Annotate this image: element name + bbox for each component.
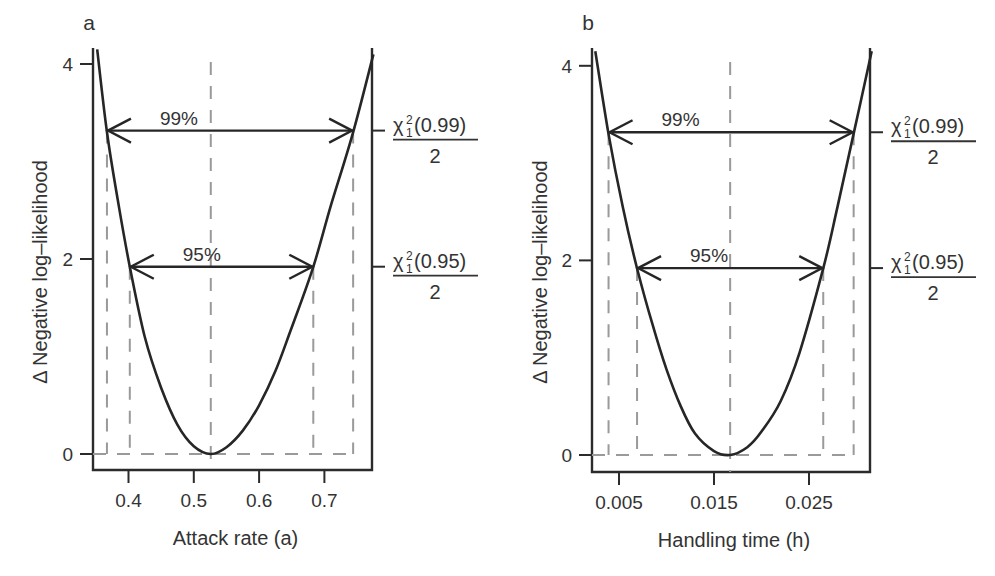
chi-superscript: 2 bbox=[904, 250, 911, 264]
x-tick-label: 0.7 bbox=[311, 490, 337, 511]
y-tick-label: 4 bbox=[62, 54, 73, 75]
y-tick-label: 2 bbox=[561, 250, 572, 271]
chi-argument: (0.95) bbox=[912, 251, 964, 273]
panel-a: a0240.40.50.60.7Attack rate (a)Δ Negativ… bbox=[29, 11, 478, 549]
chi-subscript: 1 bbox=[904, 127, 911, 141]
panel-label: a bbox=[83, 11, 95, 34]
y-tick-label: 4 bbox=[561, 56, 572, 77]
y-axis-label: Δ Negative log–likelihood bbox=[529, 160, 551, 384]
chi-subscript: 1 bbox=[904, 263, 911, 277]
panel-b: b0240.0050.0150.025Handling time (h)Δ Ne… bbox=[529, 11, 976, 551]
fraction-denominator: 2 bbox=[429, 145, 440, 167]
x-tick-label: 0.5 bbox=[181, 490, 207, 511]
ci-level-label: 95% bbox=[183, 244, 221, 265]
x-axis-label: Handling time (h) bbox=[658, 529, 810, 551]
plot-frame bbox=[93, 48, 372, 470]
chi-symbol: χ bbox=[891, 251, 902, 273]
chi-subscript: 1 bbox=[406, 262, 413, 276]
y-tick-label: 2 bbox=[62, 249, 73, 270]
x-tick-label: 0.6 bbox=[246, 490, 272, 511]
chi-subscript: 1 bbox=[406, 126, 413, 140]
y-tick-label: 0 bbox=[561, 445, 572, 466]
ci-level-label: 95% bbox=[690, 245, 728, 266]
fraction-denominator: 2 bbox=[429, 281, 440, 303]
ci-level-label: 99% bbox=[160, 108, 198, 129]
x-tick-label: 0.005 bbox=[595, 492, 643, 513]
x-tick-label: 0.015 bbox=[690, 492, 738, 513]
likelihood-profile-curve bbox=[97, 49, 373, 454]
panel-label: b bbox=[582, 11, 594, 34]
chi-symbol: χ bbox=[891, 115, 902, 137]
x-tick-label: 0.025 bbox=[785, 492, 833, 513]
chi-superscript: 2 bbox=[406, 113, 413, 127]
chi-symbol: χ bbox=[393, 114, 404, 136]
chi-superscript: 2 bbox=[904, 114, 911, 128]
ci-level-label: 99% bbox=[662, 109, 700, 130]
x-axis-label: Attack rate (a) bbox=[173, 527, 299, 549]
chi-superscript: 2 bbox=[406, 249, 413, 263]
figure: a0240.40.50.60.7Attack rate (a)Δ Negativ… bbox=[0, 0, 995, 576]
chi-argument: (0.95) bbox=[414, 250, 466, 272]
chi-argument: (0.99) bbox=[414, 114, 466, 136]
chi-symbol: χ bbox=[393, 250, 404, 272]
chi-argument: (0.99) bbox=[912, 115, 964, 137]
y-tick-label: 0 bbox=[62, 444, 73, 465]
x-tick-label: 0.4 bbox=[115, 490, 142, 511]
fraction-denominator: 2 bbox=[927, 282, 938, 304]
y-axis-label: Δ Negative log–likelihood bbox=[29, 160, 51, 384]
fraction-denominator: 2 bbox=[927, 146, 938, 168]
